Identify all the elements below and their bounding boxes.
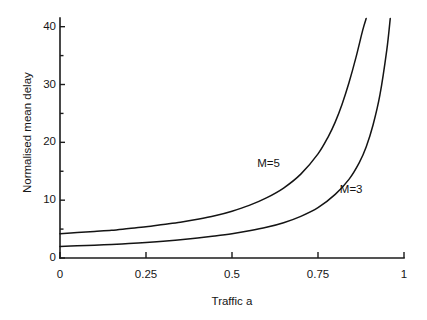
series-line-m5 [60, 19, 366, 234]
axes-group [60, 18, 404, 258]
y-tick-label: 10 [43, 194, 56, 206]
y-axis-title: Normalised mean delay [22, 72, 34, 193]
y-tick-label: 30 [43, 79, 56, 91]
series-annotation: M=3 [340, 184, 363, 196]
y-tick-label: 20 [43, 136, 56, 148]
y-tick-label: 0 [50, 252, 56, 264]
data-series-group [60, 19, 390, 247]
x-tick-label: 0.25 [121, 269, 171, 281]
x-axis-title: Traffic a [202, 296, 262, 308]
x-tick-label: 0.5 [207, 269, 257, 281]
x-tick-label: 1 [379, 269, 427, 281]
x-tick-label: 0 [35, 269, 85, 281]
x-axis-ticks [60, 252, 404, 258]
y-tick-label: 40 [43, 21, 56, 33]
series-annotation: M=5 [257, 158, 280, 170]
chart-figure: 010203040 00.250.50.751 M=5M=3 Normalise… [0, 0, 427, 320]
x-tick-label: 0.75 [293, 269, 343, 281]
series-line-m3 [60, 19, 390, 247]
